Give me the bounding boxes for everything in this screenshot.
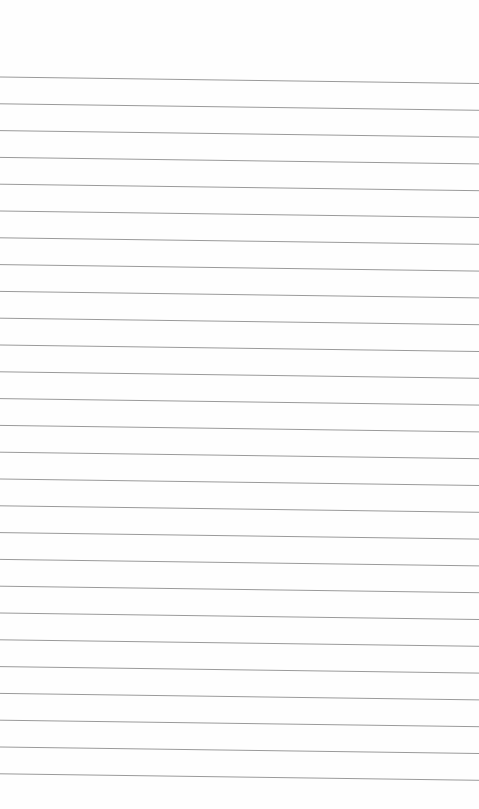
ruled-line	[0, 104, 479, 111]
ruled-line	[0, 586, 479, 593]
ruled-line	[0, 345, 479, 352]
ruled-line	[0, 77, 479, 84]
ruled-line	[0, 613, 479, 620]
ruled-line	[0, 747, 479, 754]
ruled-line	[0, 479, 479, 486]
ruled-lines	[0, 0, 479, 809]
ruled-line	[0, 131, 479, 138]
ruled-line	[0, 238, 479, 245]
ruled-line	[0, 774, 479, 781]
ruled-line	[0, 506, 479, 513]
ruled-line	[0, 533, 479, 540]
ruled-line	[0, 291, 479, 298]
ruled-line	[0, 720, 479, 727]
ruled-line	[0, 559, 479, 566]
ruled-line	[0, 265, 479, 272]
ruled-line	[0, 184, 479, 191]
lined-paper-sheet	[0, 0, 479, 809]
ruled-line	[0, 667, 479, 674]
ruled-line	[0, 318, 479, 325]
ruled-line	[0, 211, 479, 218]
ruled-line	[0, 372, 479, 379]
ruled-line	[0, 693, 479, 700]
ruled-line	[0, 640, 479, 647]
ruled-line	[0, 452, 479, 459]
ruled-line	[0, 157, 479, 164]
ruled-line	[0, 425, 479, 432]
ruled-line	[0, 399, 479, 406]
